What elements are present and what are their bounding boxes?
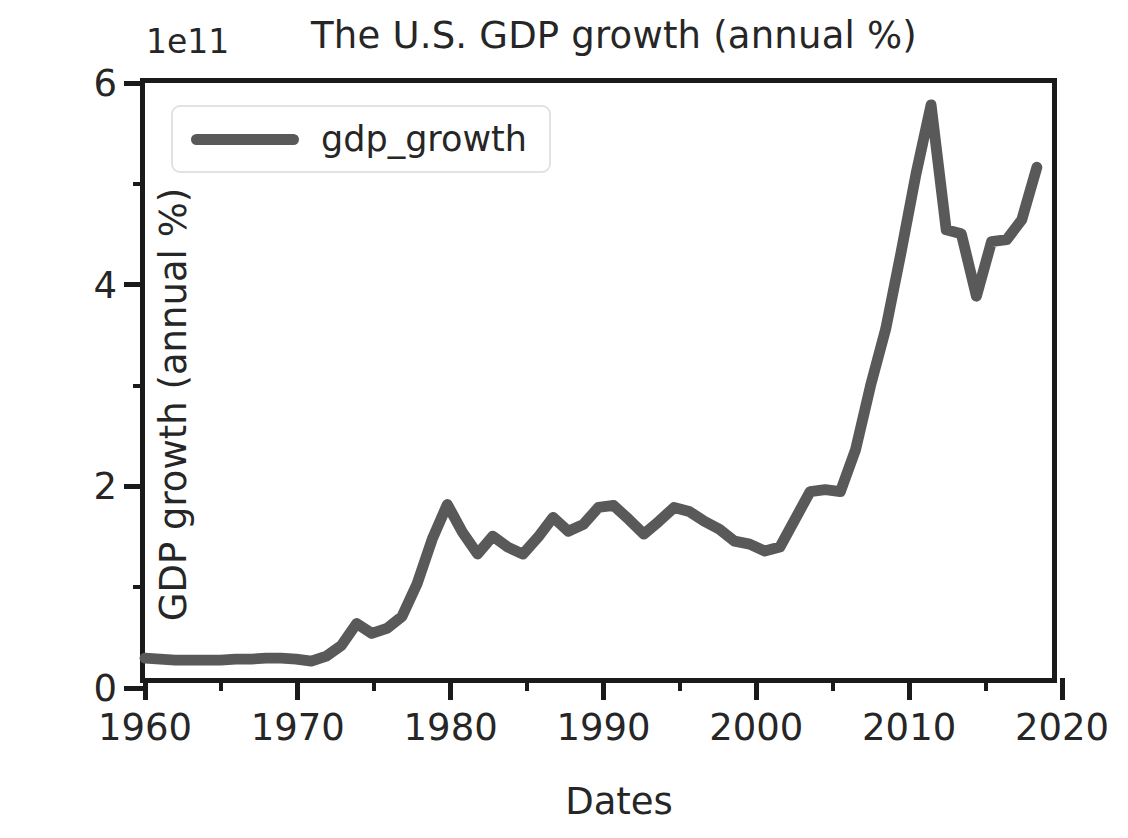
x-tick-label-1990: 1990 bbox=[556, 706, 650, 749]
legend-label-gdp-growth: gdp_growth bbox=[321, 119, 527, 159]
x-minor-tick-1985 bbox=[525, 678, 529, 691]
x-tick-label-2020: 2020 bbox=[1015, 706, 1109, 749]
x-tick-2000 bbox=[754, 678, 759, 700]
x-tick-2010 bbox=[907, 678, 912, 700]
x-minor-tick-2005 bbox=[831, 678, 835, 691]
x-minor-tick-1965 bbox=[219, 678, 223, 691]
chart-figure: The U.S. GDP growth (annual %) 1e11 0246… bbox=[0, 0, 1128, 838]
x-minor-tick-1975 bbox=[372, 678, 376, 691]
x-minor-tick-1995 bbox=[678, 678, 682, 691]
y-tick-6 bbox=[124, 81, 145, 86]
x-tick-label-1970: 1970 bbox=[251, 706, 345, 749]
x-minor-tick-2015 bbox=[984, 678, 988, 691]
chart-legend[interactable]: gdp_growth bbox=[171, 105, 551, 173]
legend-line-swatch bbox=[191, 134, 299, 145]
y-minor-tick-5 bbox=[133, 182, 145, 186]
y-axis-exponent-label: 1e11 bbox=[146, 22, 229, 61]
y-tick-label-6: 6 bbox=[93, 62, 117, 105]
x-tick-label-1980: 1980 bbox=[404, 706, 498, 749]
y-tick-4 bbox=[124, 282, 145, 287]
y-minor-tick-3 bbox=[133, 384, 145, 388]
x-axis-title: Dates bbox=[0, 780, 1128, 823]
x-tick-1980 bbox=[448, 678, 453, 700]
y-axis-title: GDP growth (annual %) bbox=[152, 85, 195, 725]
x-tick-1990 bbox=[601, 678, 606, 700]
y-tick-label-4: 4 bbox=[93, 263, 117, 306]
x-tick-label-2010: 2010 bbox=[862, 706, 956, 749]
plot-area: 0246 1960197019801990200020102020 gdp_gr… bbox=[140, 78, 1057, 683]
y-minor-tick-1 bbox=[133, 585, 145, 589]
y-tick-2 bbox=[124, 484, 145, 489]
y-tick-label-2: 2 bbox=[93, 465, 117, 508]
x-tick-1970 bbox=[295, 678, 300, 700]
x-tick-2020 bbox=[1060, 678, 1065, 700]
x-tick-label-2000: 2000 bbox=[709, 706, 803, 749]
x-tick-1960 bbox=[143, 678, 148, 700]
series-line-gdp-growth bbox=[145, 105, 1037, 661]
y-tick-label-0: 0 bbox=[93, 667, 117, 710]
